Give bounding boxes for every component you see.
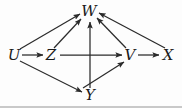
dag-figure: UZWVXY	[0, 0, 182, 108]
node-label-u: U	[8, 48, 21, 63]
edge-u-to-w	[20, 14, 80, 49]
edge-v-to-w	[97, 18, 126, 48]
edge-u-to-y	[20, 61, 82, 92]
node-label-w: W	[81, 4, 96, 19]
edge-layer	[20, 13, 165, 92]
node-label-z: Z	[46, 48, 56, 63]
edge-y-to-v	[83, 62, 124, 88]
node-label-x: X	[163, 48, 174, 63]
node-label-y: Y	[85, 88, 95, 103]
node-label-v: V	[125, 48, 136, 63]
edge-z-to-w	[54, 19, 81, 48]
figure-bottom-border	[0, 106, 182, 108]
